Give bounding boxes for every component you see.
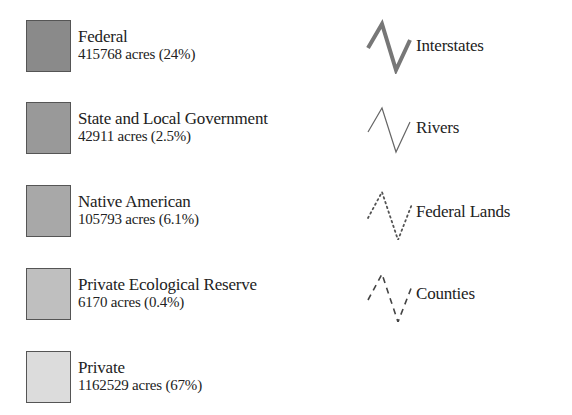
legend-stat: 105793 acres (6.1%)	[78, 211, 199, 228]
legend-item-counties: Counties	[366, 266, 475, 322]
thick-solid-line-icon	[366, 18, 414, 74]
native-american-swatch	[26, 185, 71, 237]
legend-name: Rivers	[416, 118, 459, 138]
state-local-swatch	[26, 102, 71, 154]
legend-item-federal-lands: Federal Lands	[366, 184, 510, 240]
legend-item-state-local: State and Local Government 42911 acres (…	[26, 102, 268, 154]
legend-name: Federal	[78, 27, 195, 46]
legend-name: Native American	[78, 192, 199, 211]
legend-item-rivers: Rivers	[366, 100, 459, 156]
legend-name: State and Local Government	[78, 109, 268, 128]
legend-stat: 6170 acres (0.4%)	[78, 294, 257, 311]
dashed-line-icon	[366, 266, 414, 322]
legend-stat: 415768 acres (24%)	[78, 46, 195, 63]
legend-item-native-american: Native American 105793 acres (6.1%)	[26, 185, 199, 237]
thin-solid-line-icon	[366, 100, 414, 156]
private-swatch	[26, 351, 71, 403]
private-ecological-reserve-swatch	[26, 268, 71, 320]
legend-item-interstates: Interstates	[366, 18, 484, 74]
legend-stat: 42911 acres (2.5%)	[78, 128, 268, 145]
legend-item-private: Private 1162529 acres (67%)	[26, 351, 202, 403]
legend-item-federal: Federal 415768 acres (24%)	[26, 20, 195, 72]
legend-name: Counties	[416, 284, 475, 304]
legend-name: Interstates	[416, 36, 484, 56]
legend-stat: 1162529 acres (67%)	[78, 377, 202, 394]
legend-name: Private	[78, 358, 202, 377]
legend-item-private-ecological-reserve: Private Ecological Reserve 6170 acres (0…	[26, 268, 257, 320]
dotted-line-icon	[366, 184, 414, 240]
federal-swatch	[26, 20, 71, 72]
legend-name: Federal Lands	[416, 202, 510, 222]
legend-name: Private Ecological Reserve	[78, 275, 257, 294]
